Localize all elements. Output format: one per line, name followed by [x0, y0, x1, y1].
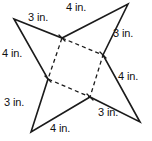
inner-dashed-square	[48, 38, 103, 97]
edge-label-left-upper: 4 in.	[2, 48, 22, 59]
star-outline-path	[14, 4, 140, 132]
edge-label-top-right-upper: 4 in.	[66, 2, 86, 13]
geometry-figure-canvas: 3 in. 4 in. 3 in. 4 in. 4 in. 3 in. 3 in…	[0, 0, 152, 141]
edge-label-left-lower: 3 in.	[4, 97, 24, 108]
edge-label-bottom-right-lower: 3 in.	[98, 107, 118, 118]
edge-label-right-upper: 3 in.	[113, 28, 133, 39]
edge-label-bottom-left-lower: 4 in.	[50, 123, 70, 134]
edge-label-top-left-upper: 3 in.	[28, 12, 48, 23]
edge-label-right-lower: 4 in.	[118, 71, 138, 82]
